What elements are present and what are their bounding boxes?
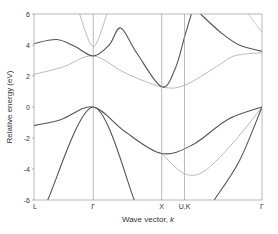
band-curve [214,107,262,200]
band-curve [162,107,262,175]
x-axis-label: Wave vector, k [122,215,175,224]
y-tick-label: -4 [24,166,30,173]
y-tick-label: 4 [26,42,30,49]
x-tick-label: Γ [91,203,95,210]
y-tick-label: -6 [24,197,30,204]
y-tick-label: 6 [26,11,30,18]
y-tick-label: 0 [26,104,30,111]
y-tick-label: -2 [24,135,30,142]
x-tick-label: L [33,203,37,210]
band-curve [34,14,191,87]
y-axis-label: Relative energy (eV) [5,70,14,143]
x-tick-label: Γ [260,203,264,210]
y-tick-label: 2 [26,73,30,80]
band-curve [48,107,135,200]
band-structure-chart: 6420-2-4-6LΓXU,KΓ Relative energy (eV) W… [0,0,278,234]
band-curve [248,14,262,33]
x-tick-label: X [159,203,164,210]
x-tick-label: U,K [179,203,191,210]
plot-area [34,14,262,200]
